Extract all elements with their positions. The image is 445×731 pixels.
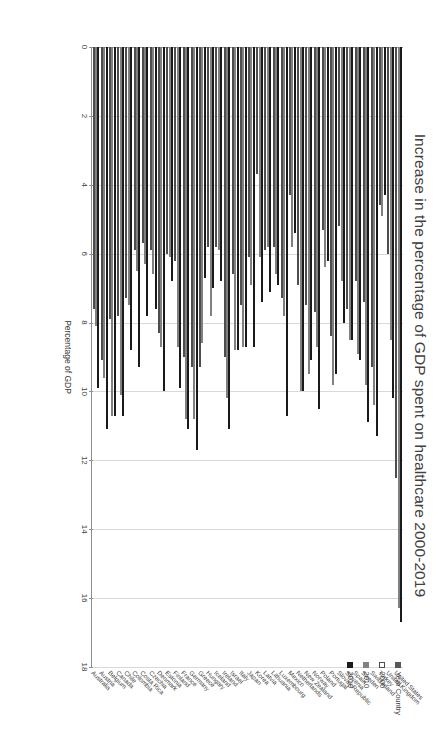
bar-2000 — [338, 47, 340, 226]
bar-2000 — [142, 47, 144, 243]
bar-2019 — [253, 47, 255, 347]
bar-2000 — [125, 47, 127, 298]
bar-2010 — [275, 47, 277, 274]
bar-group — [207, 47, 215, 667]
bar-2000 — [150, 47, 152, 250]
bar-2010 — [283, 47, 285, 316]
bar-group — [166, 47, 174, 667]
bar-group — [223, 47, 231, 667]
legend-item[interactable]: 2010 — [362, 662, 371, 689]
bar-2000 — [158, 47, 160, 333]
bar-2010 — [177, 47, 179, 347]
bar-2010 — [357, 47, 359, 354]
bar-group — [215, 47, 223, 667]
bar-2000 — [265, 47, 267, 250]
bar-2000 — [215, 47, 217, 247]
bar-2019 — [261, 47, 263, 302]
chart-title: Increase in the percentage of GDP spent … — [411, 0, 429, 731]
bar-2000 — [330, 47, 332, 336]
bar-group — [239, 47, 247, 667]
legend-label: 2010 — [362, 672, 371, 689]
bar-2010 — [95, 47, 97, 326]
bar-group — [158, 47, 166, 667]
legend-swatch-icon — [348, 662, 354, 668]
bar-2010 — [251, 47, 253, 285]
bar-2010 — [324, 47, 326, 267]
bar-2010 — [300, 47, 302, 391]
bar-2000 — [363, 47, 365, 302]
bar-2000 — [297, 47, 299, 285]
bar-2010 — [365, 47, 367, 385]
bar-2010 — [185, 47, 187, 419]
bar-2019 — [228, 47, 230, 429]
bar-2019 — [146, 47, 148, 316]
bar-group — [272, 47, 280, 667]
bar-2000 — [117, 47, 119, 316]
bar-2000 — [355, 47, 357, 281]
bar-2010 — [267, 47, 269, 247]
chart-figure: Increase in the percentage of GDP spent … — [0, 0, 445, 731]
bar-2019 — [130, 47, 132, 350]
bar-2019 — [367, 47, 369, 422]
bar-2010 — [218, 47, 220, 250]
legend-label: Year Country — [394, 672, 403, 716]
bar-2019 — [269, 47, 271, 292]
bar-group — [395, 47, 403, 667]
bar-2019 — [155, 47, 157, 309]
bar-2019 — [392, 47, 394, 398]
legend-item[interactable]: 2000 — [378, 662, 387, 689]
bar-group — [190, 47, 198, 667]
bar-2019 — [384, 47, 386, 195]
bar-group — [329, 47, 337, 667]
bar-2000 — [199, 47, 201, 367]
bar-2010 — [169, 47, 171, 257]
bar-2000 — [240, 47, 242, 305]
bar-group — [108, 47, 116, 667]
bar-2000 — [248, 47, 250, 257]
bar-2000 — [93, 47, 95, 309]
bar-2010 — [291, 47, 293, 247]
bar-group — [354, 47, 362, 667]
bar-2019 — [351, 47, 353, 340]
bar-2019 — [237, 47, 239, 350]
bar-group — [313, 47, 321, 667]
bar-2019 — [171, 47, 173, 281]
bar-2010 — [234, 47, 236, 350]
bar-2010 — [259, 47, 261, 257]
bar-2010 — [144, 47, 146, 264]
legend-item[interactable]: 2019 — [346, 662, 355, 689]
bar-2019 — [310, 47, 312, 360]
bar-group — [362, 47, 370, 667]
bar-2000 — [224, 47, 226, 357]
bar-group — [117, 47, 125, 667]
bar-2010 — [332, 47, 334, 385]
bar-2000 — [101, 47, 103, 360]
bar-2019 — [343, 47, 345, 323]
bar-group — [231, 47, 239, 667]
bar-group — [125, 47, 133, 667]
bar-2000 — [232, 47, 234, 274]
bar-2010 — [111, 47, 113, 416]
bar-2000 — [191, 47, 193, 367]
bar-group — [321, 47, 329, 667]
bar-rows — [92, 47, 403, 667]
bar-2000 — [134, 47, 136, 250]
bar-2019 — [212, 47, 214, 288]
bar-2010 — [316, 47, 318, 347]
bar-group — [387, 47, 395, 667]
bar-2019 — [359, 47, 361, 360]
chart-legend: Year Country200020102019 — [346, 662, 403, 716]
bar-2000 — [166, 47, 168, 254]
bar-group — [92, 47, 100, 667]
bar-2010 — [128, 47, 130, 305]
legend-swatch-icon — [364, 662, 370, 668]
bar-2019 — [376, 47, 378, 436]
legend-label: 2000 — [378, 672, 387, 689]
bar-group — [133, 47, 141, 667]
bar-2010 — [341, 47, 343, 281]
bar-group — [256, 47, 264, 667]
legend-item[interactable]: Year Country — [394, 662, 403, 716]
bar-group — [198, 47, 206, 667]
legend-swatch-icon — [396, 662, 402, 668]
bar-2010 — [193, 47, 195, 419]
